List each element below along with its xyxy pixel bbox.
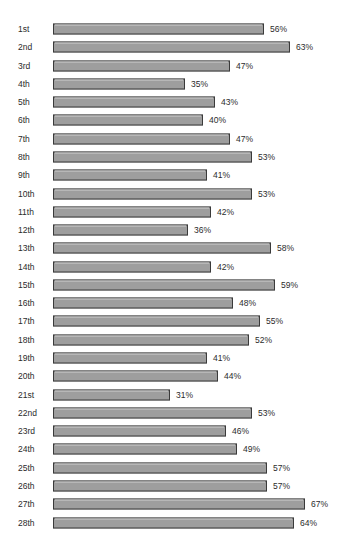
value-label: 58% xyxy=(277,243,294,253)
bar xyxy=(53,389,170,400)
bar-row: 12th36% xyxy=(0,221,349,239)
bar-track xyxy=(53,225,188,236)
bar-row: 21st31% xyxy=(0,386,349,404)
value-label: 41% xyxy=(213,170,230,180)
category-label: 5th xyxy=(18,97,30,107)
bar xyxy=(53,353,207,364)
bar xyxy=(53,97,215,108)
bar xyxy=(53,481,267,492)
value-label: 40% xyxy=(209,115,226,125)
bar xyxy=(53,78,185,89)
bar-row: 3rd47% xyxy=(0,57,349,75)
bar xyxy=(53,444,237,455)
bar-row: 14th42% xyxy=(0,258,349,276)
value-label: 55% xyxy=(266,316,283,326)
value-label: 49% xyxy=(243,444,260,454)
bar-row: 8th53% xyxy=(0,148,349,166)
bar xyxy=(53,371,218,382)
value-label: 63% xyxy=(296,42,313,52)
bar-row: 6th40% xyxy=(0,111,349,129)
bar-track xyxy=(53,334,249,345)
bar xyxy=(53,462,267,473)
bar-row: 19th41% xyxy=(0,349,349,367)
value-label: 64% xyxy=(300,518,317,528)
bar-row: 18th52% xyxy=(0,331,349,349)
category-label: 21st xyxy=(18,390,34,400)
bar xyxy=(53,24,264,35)
bar-track xyxy=(53,444,237,455)
value-label: 31% xyxy=(176,390,193,400)
bar-track xyxy=(53,389,170,400)
category-label: 13th xyxy=(18,243,35,253)
category-label: 14th xyxy=(18,262,35,272)
bar xyxy=(53,133,230,144)
category-label: 11th xyxy=(18,207,34,217)
bar-row: 24th49% xyxy=(0,440,349,458)
bar xyxy=(53,170,207,181)
bar-row: 2nd63% xyxy=(0,38,349,56)
category-label: 18th xyxy=(18,335,35,345)
value-label: 42% xyxy=(217,262,234,272)
value-label: 36% xyxy=(194,225,211,235)
bar-row: 16th48% xyxy=(0,294,349,312)
bar-row: 17th55% xyxy=(0,312,349,330)
category-label: 4th xyxy=(18,79,30,89)
value-label: 57% xyxy=(273,463,290,473)
category-label: 6th xyxy=(18,115,30,125)
value-label: 41% xyxy=(213,353,230,363)
bar-row: 26th57% xyxy=(0,477,349,495)
bar-track xyxy=(53,426,226,437)
value-label: 46% xyxy=(232,426,249,436)
bar-track xyxy=(53,170,207,181)
bar-row: 11th42% xyxy=(0,203,349,221)
bar-row: 23rd46% xyxy=(0,422,349,440)
value-label: 57% xyxy=(273,481,290,491)
bar-row: 10th53% xyxy=(0,185,349,203)
category-label: 25th xyxy=(18,463,35,473)
bar-row: 13th58% xyxy=(0,239,349,257)
category-label: 16th xyxy=(18,298,35,308)
value-label: 56% xyxy=(270,24,287,34)
bar-track xyxy=(53,261,211,272)
bar xyxy=(53,151,252,162)
category-label: 26th xyxy=(18,481,35,491)
bar-track xyxy=(53,60,230,71)
bar xyxy=(53,426,226,437)
bar-track xyxy=(53,517,294,528)
bar xyxy=(53,279,275,290)
bar-track xyxy=(53,133,230,144)
bar-track xyxy=(53,243,271,254)
bar-track xyxy=(53,206,211,217)
bar xyxy=(53,298,233,309)
category-label: 12th xyxy=(18,225,35,235)
bar-row: 25th57% xyxy=(0,459,349,477)
value-label: 47% xyxy=(236,61,253,71)
bar xyxy=(53,60,230,71)
bar xyxy=(53,188,252,199)
value-label: 35% xyxy=(191,79,208,89)
value-label: 42% xyxy=(217,207,234,217)
bar-track xyxy=(53,499,305,510)
value-label: 47% xyxy=(236,134,253,144)
category-label: 7th xyxy=(18,134,30,144)
category-label: 17th xyxy=(18,316,35,326)
value-label: 53% xyxy=(258,189,275,199)
category-label: 10th xyxy=(18,189,35,199)
value-label: 59% xyxy=(281,280,298,290)
value-label: 53% xyxy=(258,408,275,418)
category-label: 3rd xyxy=(18,61,30,71)
bar-track xyxy=(53,279,275,290)
bar-track xyxy=(53,353,207,364)
bar-row: 20th44% xyxy=(0,367,349,385)
bar xyxy=(53,316,260,327)
bar-track xyxy=(53,481,267,492)
bar-track xyxy=(53,78,185,89)
bar-track xyxy=(53,371,218,382)
category-label: 20th xyxy=(18,371,35,381)
bar-row: 27th67% xyxy=(0,495,349,513)
value-label: 53% xyxy=(258,152,275,162)
bar-track xyxy=(53,316,260,327)
bar xyxy=(53,206,211,217)
value-label: 43% xyxy=(221,97,238,107)
bar xyxy=(53,115,203,126)
